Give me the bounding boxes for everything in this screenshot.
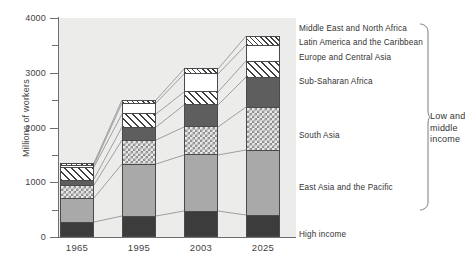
legend-item-middle-east-and-north-africa: Middle East and North Africa — [299, 24, 407, 33]
segment-1995-east-asia-and-the-pacific — [122, 164, 156, 216]
segment-2003-europe-and-central-asia — [184, 91, 218, 104]
segment-1995-high-income — [122, 216, 156, 237]
bracket-label: Low and middle income — [430, 111, 465, 146]
segment-2003-east-asia-and-the-pacific — [184, 154, 218, 211]
segment-2003-high-income — [184, 211, 218, 237]
y-tick-0 — [50, 237, 58, 238]
segment-2025-high-income — [246, 215, 280, 237]
segment-2025-latin-america-and-the-caribbean — [246, 45, 280, 61]
y-axis-label: Millions of workers — [21, 48, 31, 188]
segment-1995-europe-and-central-asia — [122, 113, 156, 127]
segment-1995-south-asia — [122, 140, 156, 164]
legend-item-latin-america-and-the-caribbean: Latin America and the Caribbean — [299, 38, 423, 47]
segment-1965-south-asia — [60, 185, 94, 198]
y-tick-2000 — [50, 128, 58, 129]
y-tick-1500 — [52, 155, 58, 156]
y-tick-label-0: 0 — [41, 232, 46, 242]
y-tick-4000 — [50, 18, 58, 19]
segment-2025-sub-saharan-africa — [246, 77, 280, 107]
legend-item-europe-and-central-asia: Europe and Central Asia — [299, 53, 391, 62]
segment-2025-south-asia — [246, 107, 280, 150]
x-tick-label-1995: 1995 — [109, 242, 169, 253]
bar-1995[interactable] — [122, 100, 156, 237]
y-tick-500 — [52, 210, 58, 211]
segment-1995-sub-saharan-africa — [122, 127, 156, 140]
x-axis-line — [58, 237, 296, 238]
y-tick-2500 — [52, 100, 58, 101]
x-tick-label-2025: 2025 — [233, 242, 293, 253]
y-tick-label-4000: 4000 — [25, 13, 46, 23]
segment-2003-latin-america-and-the-caribbean — [184, 73, 218, 91]
y-tick-3500 — [52, 45, 58, 46]
bar-1965[interactable] — [60, 163, 94, 237]
bracket-line-3: income — [430, 134, 465, 146]
segment-2025-middle-east-and-north-africa — [246, 36, 280, 45]
bar-2003[interactable] — [184, 68, 218, 237]
segment-1995-latin-america-and-the-caribbean — [122, 103, 156, 113]
segment-1965-high-income — [60, 222, 94, 237]
bar-2025[interactable] — [246, 36, 280, 237]
segment-1965-europe-and-central-asia — [60, 167, 94, 180]
segment-2003-sub-saharan-africa — [184, 104, 218, 126]
segment-2025-europe-and-central-asia — [246, 61, 280, 77]
legend-item-high-income: High income — [299, 230, 346, 239]
legend-item-sub-saharan-africa: Sub-Saharan Africa — [299, 77, 373, 86]
low-middle-income-bracket — [408, 22, 432, 212]
legend-item-south-asia: South Asia — [299, 131, 340, 140]
x-tick-label-1965: 1965 — [47, 242, 107, 253]
y-axis-line — [58, 17, 59, 238]
segment-2025-east-asia-and-the-pacific — [246, 150, 280, 215]
y-tick-1000 — [50, 182, 58, 183]
bracket-line-2: middle — [430, 123, 465, 135]
legend-item-east-asia-and-the-pacific: East Asia and the Pacific — [299, 183, 393, 192]
segment-2003-south-asia — [184, 126, 218, 154]
y-tick-3000 — [50, 73, 58, 74]
bracket-line-1: Low and — [430, 111, 465, 123]
x-tick-label-2003: 2003 — [171, 242, 231, 253]
segment-1965-east-asia-and-the-pacific — [60, 198, 94, 222]
chart-figure: 4000 3000 2000 1000 0 Millions of worker… — [0, 0, 465, 268]
